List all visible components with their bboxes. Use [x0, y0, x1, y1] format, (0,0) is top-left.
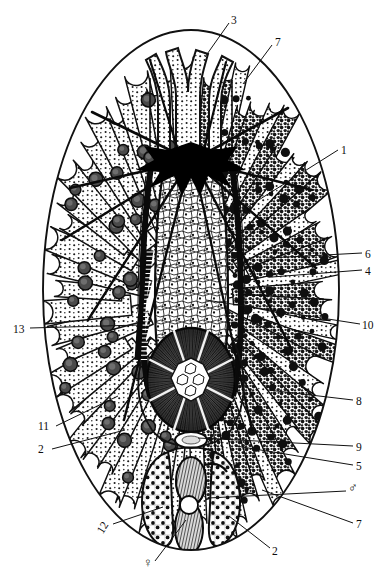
- figure-label-5: 5: [356, 461, 362, 473]
- figure-label-4: 4: [365, 266, 371, 278]
- figure-canvas: 371641310811925♂7122♀: [0, 0, 382, 579]
- figure-label-11: 11: [38, 421, 49, 433]
- figure-label-13: 13: [13, 324, 25, 336]
- figure-label-7: 7: [275, 37, 281, 49]
- figure-label-9: 9: [356, 442, 362, 454]
- figure-label-8: 8: [356, 396, 362, 408]
- figure-label-6: 6: [365, 249, 371, 261]
- figure-label-2: 2: [272, 546, 278, 558]
- figure-label-7: 7: [356, 519, 362, 531]
- figure-label-female: ♀: [143, 556, 153, 569]
- figure-label-3: 3: [231, 15, 237, 27]
- lower-striated-organ: [175, 496, 203, 554]
- figure-label-2: 2: [38, 444, 44, 456]
- figure-label-male: ♂: [348, 481, 358, 494]
- subrosette-vesicle: [175, 432, 207, 448]
- figure-label-1: 1: [341, 145, 347, 157]
- figure-label-10: 10: [362, 320, 374, 332]
- anatomical-diagram: [0, 0, 382, 579]
